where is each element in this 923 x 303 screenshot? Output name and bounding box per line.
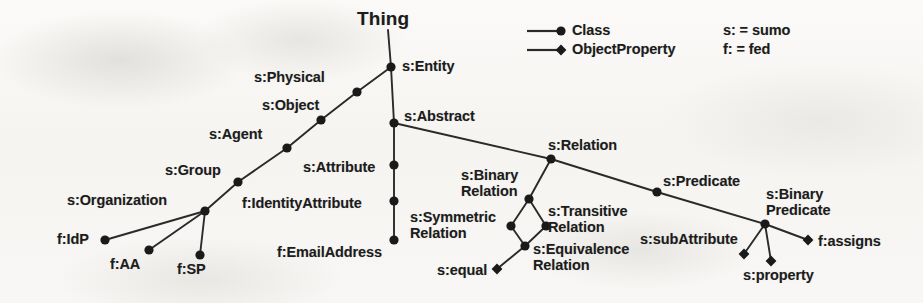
node-circle-abstract[interactable] — [389, 118, 398, 127]
node-circle-equivalencerelation[interactable] — [520, 241, 529, 250]
edge-organization-to-sp — [200, 211, 205, 255]
node-label-physical[interactable]: s:Physical — [254, 70, 325, 85]
edge-entity-to-physical — [357, 67, 391, 92]
node-label-object[interactable]: s:Object — [262, 98, 319, 113]
edge-organization-to-aa — [149, 211, 205, 250]
edge-agent-to-group — [238, 148, 287, 182]
node-circle-agent[interactable] — [282, 143, 291, 152]
node-label-binarypredicate[interactable]: s:Binary Predicate — [766, 186, 830, 218]
edge-thing-root-to-entity — [388, 30, 391, 67]
node-label-sp[interactable]: f:SP — [177, 262, 206, 277]
node-circle-identityattribute[interactable] — [389, 196, 398, 205]
node-circle-binaryrelation[interactable] — [524, 194, 533, 203]
edge-binarypredicate-to-subattribute — [744, 224, 765, 254]
node-circle-group[interactable] — [233, 177, 242, 186]
node-label-group[interactable]: s:Group — [165, 163, 221, 178]
node-circle-entity[interactable] — [386, 62, 395, 71]
node-label-organization[interactable]: s:Organization — [67, 193, 167, 208]
node-circle-organization[interactable] — [200, 206, 209, 215]
node-circle-sp[interactable] — [195, 250, 204, 259]
node-label-equivalencerelation[interactable]: s:Equivalence Relation — [533, 241, 629, 273]
node-label-attribute[interactable]: s:Attribute — [303, 160, 375, 175]
edge-group-to-organization — [205, 182, 238, 211]
edge-relation-to-predicate — [551, 159, 657, 192]
legend-objectproperty-label: ObjectProperty — [572, 41, 675, 57]
node-circle-predicate[interactable] — [652, 187, 661, 196]
page-title: Thing — [357, 8, 409, 30]
circle-marker-icon — [556, 26, 565, 35]
node-circle-symmetricrelation[interactable] — [506, 221, 515, 230]
node-circle-relation[interactable] — [546, 154, 555, 163]
node-circle-emailaddress[interactable] — [389, 235, 398, 244]
diamond-marker-icon — [556, 45, 567, 56]
node-circle-aa[interactable] — [144, 245, 153, 254]
node-diamond-assigns[interactable] — [803, 235, 814, 246]
node-diamond-property[interactable] — [766, 256, 777, 267]
node-label-emailaddress[interactable]: f:EmailAddress — [277, 245, 382, 260]
edge-physical-to-object — [321, 92, 357, 120]
node-label-aa[interactable]: f:AA — [110, 257, 140, 272]
legend-prefix-sumo: s: = sumo — [723, 22, 790, 38]
node-label-abstract[interactable]: s:Abstract — [404, 109, 475, 124]
node-label-subattribute[interactable]: s:subAttribute — [640, 232, 738, 247]
node-label-predicate[interactable]: s:Predicate — [663, 174, 740, 189]
ontology-diagram: Thing s:Entitys:Physicals:Objects:Agents… — [0, 0, 923, 303]
edge-predicate-to-binarypredicate — [657, 192, 765, 224]
node-label-property[interactable]: s:property — [743, 268, 814, 283]
node-label-assigns[interactable]: f:assigns — [818, 234, 881, 249]
node-label-symmetricrelation[interactable]: s:Symmetric Relation — [410, 209, 496, 241]
node-label-entity[interactable]: s:Entity — [402, 59, 454, 74]
legend-marker-layer — [527, 26, 566, 55]
legend-prefix-fed: f: = fed — [723, 41, 770, 57]
edge-organization-to-idp — [105, 211, 205, 240]
edge-binarypredicate-to-assigns — [765, 224, 808, 240]
edge-binarypredicate-to-property — [765, 224, 771, 261]
edge-equivalencerelation-to-equal — [497, 246, 525, 269]
node-label-idp[interactable]: f:IdP — [57, 232, 89, 247]
node-label-identityattribute[interactable]: f:IdentityAttribute — [242, 196, 362, 211]
node-circle-attribute[interactable] — [389, 160, 398, 169]
node-circle-physical[interactable] — [352, 87, 361, 96]
node-label-agent[interactable]: s:Agent — [209, 127, 262, 142]
edge-relation-to-binaryrelation — [529, 159, 551, 199]
node-label-binaryrelation[interactable]: s:Binary Relation — [461, 167, 518, 199]
node-label-equal[interactable]: s:equal — [437, 263, 487, 278]
node-label-transitiverelation[interactable]: s:Transitive Relation — [548, 203, 627, 235]
edge-abstract-to-relation — [394, 123, 551, 159]
node-label-relation[interactable]: s:Relation — [548, 138, 617, 153]
node-circle-object[interactable] — [316, 115, 325, 124]
legend-class-label: Class — [572, 22, 610, 38]
edge-binaryrelation-to-transitiverelation — [529, 199, 546, 226]
node-circle-idp[interactable] — [100, 235, 109, 244]
edge-binaryrelation-to-symmetricrelation — [511, 199, 529, 226]
edge-object-to-agent — [287, 120, 321, 148]
edge-entity-to-abstract — [391, 67, 394, 123]
node-circle-binarypredicate[interactable] — [760, 219, 769, 228]
